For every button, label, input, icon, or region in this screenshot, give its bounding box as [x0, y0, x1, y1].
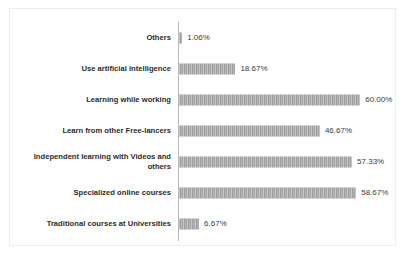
- bar[interactable]: [179, 32, 182, 43]
- bar[interactable]: [179, 63, 235, 74]
- plot-area: Others 1.06% Use artificial intelligence…: [10, 9, 395, 245]
- value-label: 46.67%: [325, 126, 352, 135]
- chart-row: Specialized online courses 58.67%: [10, 177, 395, 208]
- bar[interactable]: [179, 156, 352, 167]
- chart-row: Learning while working 60.00%: [10, 84, 395, 115]
- value-label: 57.33%: [357, 157, 384, 166]
- chart-row: Use artificial intelligence 18.67%: [10, 53, 395, 84]
- bar[interactable]: [179, 125, 320, 136]
- chart-container: Others 1.06% Use artificial intelligence…: [9, 8, 396, 246]
- bar[interactable]: [179, 218, 199, 229]
- category-label: Traditional courses at Universities: [11, 218, 171, 229]
- chart-row: Independent learning with Videos and oth…: [10, 146, 395, 177]
- bar-group[interactable]: 1.06%: [179, 32, 182, 43]
- bar-group[interactable]: 60.00%: [179, 94, 360, 105]
- value-label: 6.67%: [204, 219, 227, 228]
- value-label: 18.67%: [240, 64, 267, 73]
- bar[interactable]: [179, 187, 356, 198]
- bar-group[interactable]: 57.33%: [179, 156, 352, 167]
- category-label: Use artificial intelligence: [11, 63, 171, 74]
- category-label: Learn from other Free-lancers: [11, 125, 171, 136]
- bar-group[interactable]: 6.67%: [179, 218, 199, 229]
- chart-row: Others 1.06%: [10, 22, 395, 53]
- bar-group[interactable]: 46.67%: [179, 125, 320, 136]
- category-label: Independent learning with Videos and oth…: [11, 151, 171, 172]
- value-label: 1.06%: [187, 33, 210, 42]
- value-label: 60.00%: [365, 95, 392, 104]
- category-label: Specialized online courses: [11, 187, 171, 198]
- bar-group[interactable]: 18.67%: [179, 63, 235, 74]
- chart-row: Traditional courses at Universities 6.67…: [10, 208, 395, 239]
- category-label: Others: [11, 32, 171, 43]
- chart-row: Learn from other Free-lancers 46.67%: [10, 115, 395, 146]
- bar[interactable]: [179, 94, 360, 105]
- value-label: 58.67%: [361, 188, 388, 197]
- category-label: Learning while working: [11, 94, 171, 105]
- bar-group[interactable]: 58.67%: [179, 187, 356, 198]
